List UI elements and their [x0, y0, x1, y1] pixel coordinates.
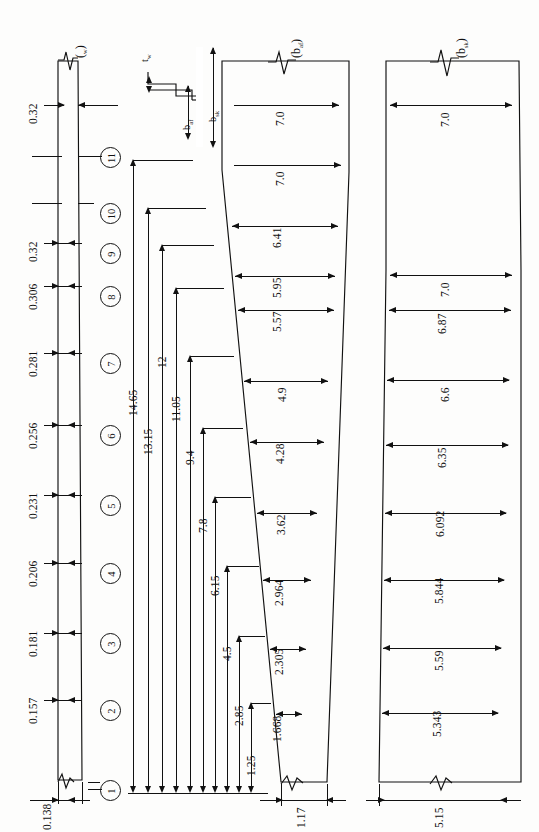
skin-dim-label: 5.844 [434, 578, 446, 604]
arrow-left-icon [390, 272, 397, 278]
arrow-right-icon [492, 710, 499, 716]
arrow-right-icon [505, 272, 512, 278]
skin-dim-line [366, 800, 521, 801]
arrow-right-icon [495, 645, 502, 651]
skin-dim-label: 5.59 [434, 650, 446, 671]
skin-dim-line [386, 445, 508, 446]
skin-outline [0, 0, 539, 832]
skin-ext-line [379, 784, 380, 806]
skin-dim-line [390, 105, 512, 106]
skin-dim-line [390, 275, 512, 276]
skin-dim-label: 6.092 [435, 511, 447, 537]
skin-dim-label: 5.15 [434, 807, 446, 828]
arrow-left-icon [384, 577, 391, 583]
arrow-right-icon [503, 377, 510, 383]
arrow-left-icon [390, 102, 397, 108]
arrow-left-icon [387, 377, 394, 383]
skin-dim-label: 5.343 [432, 711, 444, 737]
arrow-right-icon [504, 307, 511, 313]
arrow-left-icon [500, 797, 507, 803]
skin-dim-label: 6.87 [437, 313, 449, 334]
skin-dim-label: 6.6 [440, 387, 452, 402]
skin-dim-label: 7.0 [440, 112, 452, 127]
arrow-left-icon [385, 510, 392, 516]
arrow-right-icon [502, 442, 509, 448]
arrow-left-icon [383, 645, 390, 651]
drawing-sheet: (w) 0.32 0.32 0.306 0.281 [0, 0, 539, 832]
arrow-left-icon [386, 442, 393, 448]
arrow-left-icon [382, 710, 389, 716]
arrow-right-icon [498, 577, 505, 583]
skin-dim-label: 6.35 [437, 447, 449, 468]
skin-dim-line [383, 648, 501, 649]
skin-dim-label: 7.0 [440, 282, 452, 297]
arrow-right-icon [505, 102, 512, 108]
arrow-right-icon [500, 510, 507, 516]
skin-dim-line [389, 310, 511, 311]
skin-dim-line [387, 380, 509, 381]
arrow-left-icon [389, 307, 396, 313]
